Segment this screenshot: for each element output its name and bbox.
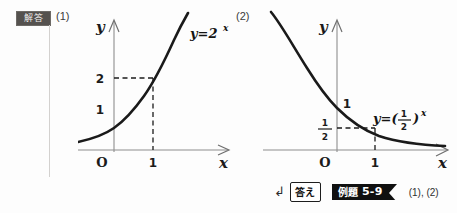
graph-2-y-tick-1: 1 xyxy=(343,97,351,111)
hook-left-arrow-icon: ↲ xyxy=(274,185,285,198)
graph-1-x-tick-1: 1 xyxy=(149,156,157,170)
graph-1-y-axis-label: y xyxy=(95,18,106,36)
answer-footer: ↲ 答え 例題 5-9 (1), (2) xyxy=(274,182,439,202)
graph-2-x-tick-1: 1 xyxy=(371,156,379,170)
answer-button[interactable]: 答え xyxy=(290,182,321,202)
example-problem-parts: (1), (2) xyxy=(409,187,439,198)
subproblem-label-1: (1) xyxy=(56,10,69,22)
example-problem-banner[interactable]: 例題 5-9 xyxy=(332,184,397,200)
graph-1-equation-base: y=2 xyxy=(189,26,218,41)
subproblem-label-2: (2) xyxy=(236,10,249,22)
example-problem-label: 例題 xyxy=(338,187,358,198)
graph-2-y-tick-half-denominator: 2 xyxy=(322,132,328,142)
graph-2-equation-frac-denominator: 2 xyxy=(401,122,407,132)
graph-1-equation-exponent: x xyxy=(222,23,229,33)
graph-1-x-axis-label: x xyxy=(218,154,229,172)
answer-page: 解答 (1) (2) y x 2 1 1 O y=2 x xyxy=(0,0,457,213)
graph-2-equation-exponent: x xyxy=(420,108,427,118)
section-vertical-rule xyxy=(49,25,50,177)
graph-2-equation: y=( 1 2 ) x xyxy=(372,108,427,132)
graph-2-y-tick-half-numerator: 1 xyxy=(322,118,328,128)
graph-1-y-tick-2: 2 xyxy=(96,72,104,86)
graph-2-equation-suffix: ) xyxy=(412,111,419,126)
graph-2-equation-prefix: y=( xyxy=(372,111,398,126)
graph-2-origin-label: O xyxy=(319,155,330,170)
answer-section-tag: 解答 xyxy=(17,12,50,25)
graph-2-exponential-decay: y x 1 1 2 1 O y=( 1 2 ) x xyxy=(255,0,455,185)
graph-2-y-tick-half: 1 2 xyxy=(318,118,332,142)
graph-1-exponential-growth: y x 2 1 1 O y=2 x xyxy=(78,0,238,185)
graph-2-equation-frac-numerator: 1 xyxy=(401,109,407,119)
graph-1-y-tick-1: 1 xyxy=(96,103,104,117)
example-problem-number: 5-9 xyxy=(362,186,383,198)
graph-1-origin-label: O xyxy=(96,155,107,170)
graph-2-y-axis-label: y xyxy=(318,18,329,36)
graph-2-x-axis-label: x xyxy=(437,154,448,172)
